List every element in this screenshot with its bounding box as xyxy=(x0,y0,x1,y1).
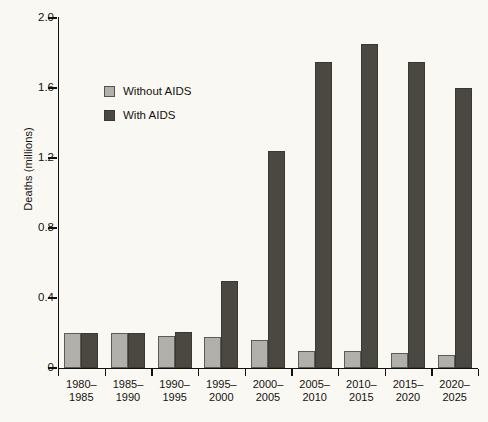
bar-with-aids xyxy=(175,332,192,368)
x-axis-category-label-line: 2000– xyxy=(245,378,292,391)
bar-without-aids xyxy=(64,333,81,368)
x-axis-category-label-line: 2015– xyxy=(385,378,432,391)
x-axis-tick-mark xyxy=(385,369,386,376)
x-axis-category-label-line: 2020 xyxy=(385,391,432,404)
x-axis-category-label: 1980–1985 xyxy=(58,378,105,403)
bar-without-aids xyxy=(298,351,315,369)
x-axis-category-label: 1985–1990 xyxy=(105,378,152,403)
x-axis-category-label-line: 2025 xyxy=(431,391,478,404)
legend-label: With AIDS xyxy=(123,109,175,121)
bar-with-aids xyxy=(315,62,332,368)
y-axis-tick-mark xyxy=(48,17,57,18)
bar-without-aids xyxy=(251,340,268,368)
x-axis-category-label-line: 1995– xyxy=(198,378,245,391)
x-axis-category-label: 2005–2010 xyxy=(291,378,338,403)
x-axis-tick-mark xyxy=(291,369,292,376)
x-axis-tick-mark xyxy=(338,369,339,376)
x-axis-category-label-line: 2005 xyxy=(245,391,292,404)
y-axis-tick-mark xyxy=(48,157,57,158)
bar-with-aids xyxy=(268,151,285,368)
bar-with-aids xyxy=(361,44,378,368)
bar-with-aids xyxy=(128,333,145,368)
x-axis-category-label: 1990–1995 xyxy=(151,378,198,403)
x-axis-category-label-line: 1995 xyxy=(151,391,198,404)
x-axis-category-label: 2015–2020 xyxy=(385,378,432,403)
x-axis-category-label-line: 1985 xyxy=(58,391,105,404)
y-axis-tick-mark xyxy=(48,367,57,368)
x-axis-category-label-line: 2010– xyxy=(338,378,385,391)
x-axis-category-labels: 1980–19851985–19901990–19951995–20002000… xyxy=(58,378,478,418)
bar-chart-figure: Deaths (millions) 00.40.81.21.62.0 1980–… xyxy=(0,0,488,422)
x-axis-category-label: 2000–2005 xyxy=(245,378,292,403)
x-axis-tick-mark xyxy=(151,369,152,376)
x-axis-category-label-line: 2000 xyxy=(198,391,245,404)
x-axis-category-label-line: 2005– xyxy=(291,378,338,391)
legend-label: Without AIDS xyxy=(123,85,191,97)
bar-without-aids xyxy=(438,355,455,368)
x-axis-tick-mark xyxy=(245,369,246,376)
y-axis-tick-mark xyxy=(48,297,57,298)
y-axis-tick-labels: 00.40.81.21.62.0 xyxy=(18,0,54,422)
x-axis-category-label-line: 2010 xyxy=(291,391,338,404)
x-axis-tick-mark xyxy=(478,369,479,376)
x-axis-category-label-line: 1985– xyxy=(105,378,152,391)
bar-with-aids xyxy=(455,88,472,368)
legend-item-with-aids: With AIDS xyxy=(104,107,191,123)
bar-with-aids xyxy=(408,62,425,368)
bar-without-aids xyxy=(391,353,408,368)
x-axis-category-label-line: 1990 xyxy=(105,391,152,404)
bar-with-aids xyxy=(81,333,98,368)
bar-without-aids xyxy=(111,333,128,368)
x-axis-category-label-line: 2020– xyxy=(431,378,478,391)
x-axis-category-label-line: 1990– xyxy=(151,378,198,391)
bar-without-aids xyxy=(344,351,361,368)
x-axis-line xyxy=(58,368,478,369)
x-axis-category-label: 2020–2025 xyxy=(431,378,478,403)
legend-swatch-icon xyxy=(104,110,115,121)
x-axis-tick-mark xyxy=(58,369,59,376)
bar-without-aids xyxy=(158,336,175,368)
x-axis-tick-mark xyxy=(105,369,106,376)
bar-without-aids xyxy=(204,337,221,368)
chart-legend: Without AIDSWith AIDS xyxy=(104,83,191,131)
x-axis-tick-mark xyxy=(431,369,432,376)
x-axis-tick-mark xyxy=(198,369,199,376)
x-axis-category-label: 2010–2015 xyxy=(338,378,385,403)
y-axis-tick-mark xyxy=(48,87,57,88)
legend-swatch-icon xyxy=(104,86,115,97)
y-axis-tick-mark xyxy=(48,227,57,228)
bars-plot-area xyxy=(58,18,478,368)
x-axis-category-label-line: 2015 xyxy=(338,391,385,404)
bar-with-aids xyxy=(221,281,238,369)
legend-item-without-aids: Without AIDS xyxy=(104,83,191,99)
x-axis-category-label: 1995–2000 xyxy=(198,378,245,403)
x-axis-category-label-line: 1980– xyxy=(58,378,105,391)
